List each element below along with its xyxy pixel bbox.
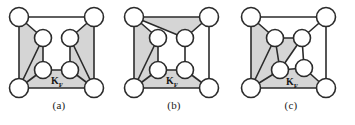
top-left-corner-node [125,8,144,27]
panel-caption-a: (a) [0,99,118,111]
bottom-right-corner-node [85,79,104,98]
inner-upper-right-node [294,30,311,47]
inner-upper-left-node [267,30,284,47]
inner-lower-right-node [296,60,313,77]
bottom-right-corner-node [200,79,219,98]
figure-root: KF (a) KF (b) KF (c) [0,0,355,125]
bottom-left-corner-node [242,79,261,98]
panel-caption-c: (c) [232,99,350,111]
inner-lower-right-node [62,62,79,79]
inner-upper-left-node [150,30,167,47]
bottom-left-corner-node [10,79,29,98]
inner-upper-left-node [35,30,52,47]
graph-diagram-c: KF [232,0,350,100]
graph-panel-b: KF (b) [115,0,233,125]
inner-lower-left-node [272,62,289,79]
top-left-corner-node [10,8,29,27]
bottom-left-corner-node [125,79,144,98]
inner-lower-left-node [150,62,167,79]
top-right-corner-node [85,8,104,27]
graph-diagram-a: KF [0,0,118,100]
graph-panel-a: KF (a) [0,0,118,125]
panel-caption-b: (b) [115,99,233,111]
inner-upper-right-node [62,30,79,47]
top-right-corner-node [200,8,219,27]
bottom-right-corner-node [317,79,336,98]
graph-panel-c: KF (c) [232,0,350,125]
graph-diagram-b: KF [115,0,233,100]
inner-upper-right-node [177,30,194,47]
top-right-corner-node [317,8,336,27]
inner-lower-left-node [35,62,52,79]
top-left-corner-node [242,8,261,27]
inner-lower-right-node [177,62,194,79]
